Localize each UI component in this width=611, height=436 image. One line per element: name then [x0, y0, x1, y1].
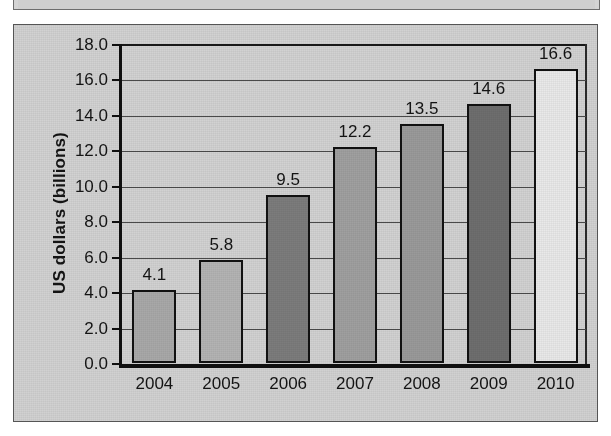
- y-tick-label: 10.0: [75, 177, 108, 197]
- bar[interactable]: [400, 124, 444, 363]
- y-tick-label: 16.0: [75, 70, 108, 90]
- x-tick-label: 2010: [537, 374, 575, 394]
- bar[interactable]: [333, 147, 377, 363]
- plot-area: 0.02.04.06.08.010.012.014.016.018.0 4.15…: [119, 44, 587, 367]
- bar-chart-figure: US dollars (billions) 0.02.04.06.08.010.…: [13, 24, 598, 422]
- bar-value-label: 16.6: [539, 44, 572, 64]
- y-tick-label: 2.0: [84, 319, 108, 339]
- x-tick-label: 2009: [470, 374, 508, 394]
- bar-value-label: 9.5: [276, 170, 300, 190]
- bar-column[interactable]: 14.6: [467, 104, 511, 363]
- top-cutoff-box-inner: [18, 0, 595, 9]
- x-tick-label: 2004: [136, 374, 174, 394]
- bar-value-label: 12.2: [338, 122, 371, 142]
- bar-value-label: 4.1: [143, 265, 167, 285]
- bar-column[interactable]: 4.1: [132, 290, 176, 363]
- x-tick-label: 2007: [336, 374, 374, 394]
- gridline: [121, 80, 586, 81]
- x-tick-label: 2006: [269, 374, 307, 394]
- y-tick-label: 0.0: [84, 354, 108, 374]
- y-tick-label: 6.0: [84, 248, 108, 268]
- bar-value-label: 13.5: [405, 99, 438, 119]
- bar[interactable]: [199, 260, 243, 363]
- bar[interactable]: [132, 290, 176, 363]
- bar[interactable]: [467, 104, 511, 363]
- y-tick-label: 8.0: [84, 212, 108, 232]
- plot-axis-baseline: [119, 364, 590, 368]
- plot-border-top: [119, 44, 587, 46]
- bar[interactable]: [266, 195, 310, 363]
- bar-column[interactable]: 13.5: [400, 124, 444, 363]
- bar-column[interactable]: 16.6: [534, 69, 578, 363]
- bar-column[interactable]: 5.8: [199, 260, 243, 363]
- y-tick-label: 14.0: [75, 106, 108, 126]
- y-tick-label: 18.0: [75, 35, 108, 55]
- bar-value-label: 5.8: [209, 235, 233, 255]
- plot-border-left: [119, 44, 122, 367]
- y-tick-label: 12.0: [75, 141, 108, 161]
- x-tick-label: 2005: [202, 374, 240, 394]
- x-tick-label: 2008: [403, 374, 441, 394]
- gridline: [121, 116, 586, 117]
- bar[interactable]: [534, 69, 578, 363]
- y-axis-title: US dollars (billions): [50, 63, 70, 363]
- plot-border-right: [585, 44, 587, 366]
- top-cutoff-box: [13, 0, 600, 10]
- bar-column[interactable]: 12.2: [333, 147, 377, 363]
- y-tick-label: 4.0: [84, 283, 108, 303]
- bar-value-label: 14.6: [472, 79, 505, 99]
- bar-column[interactable]: 9.5: [266, 195, 310, 363]
- scanned-page: US dollars (billions) 0.02.04.06.08.010.…: [0, 0, 611, 436]
